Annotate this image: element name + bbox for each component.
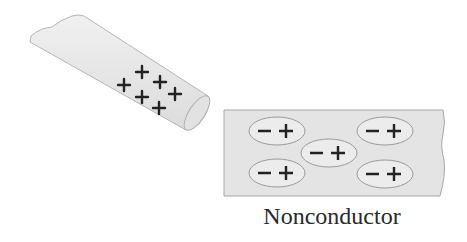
nonconductor-label: Nonconductor	[242, 203, 422, 230]
charged-rod	[30, 15, 215, 134]
dipole	[357, 160, 413, 188]
dipole	[249, 159, 305, 187]
dipole	[301, 139, 357, 167]
dipole	[249, 117, 305, 145]
dipole	[357, 117, 413, 145]
nonconductor-slab	[224, 110, 445, 196]
